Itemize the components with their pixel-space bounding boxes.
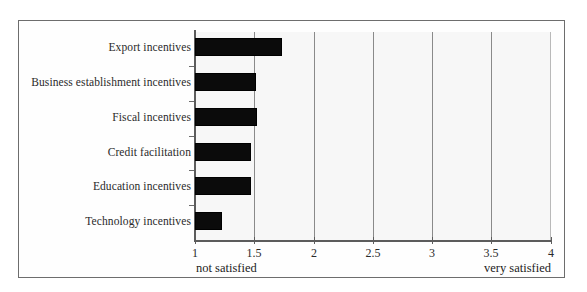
gridline-3-5 <box>491 32 492 240</box>
horizontal-bar-chart: Export incentives Business establishment… <box>0 0 587 292</box>
scale-anchor-low: not satisfied <box>196 261 257 276</box>
y-tick-1 <box>189 66 194 67</box>
plot-area <box>195 32 551 240</box>
bar-business-establishment-incentives <box>195 73 256 91</box>
x-tick-label-2: 2 <box>311 246 317 261</box>
bar-credit-facilitation <box>195 143 251 161</box>
x-tick-label-4: 4 <box>548 246 554 261</box>
x-tick-4 <box>551 237 552 244</box>
x-tick-2 <box>314 237 315 244</box>
x-tick-2-5 <box>373 237 374 244</box>
gridline-3 <box>432 32 433 240</box>
category-label-credit-facilitation: Credit facilitation <box>108 146 191 158</box>
x-tick-3 <box>432 237 433 244</box>
y-tick-4 <box>189 170 194 171</box>
scale-anchor-high: very satisfied <box>484 261 551 276</box>
category-label-business-establishment-incentives: Business establishment incentives <box>31 76 191 88</box>
category-label-export-incentives: Export incentives <box>109 41 192 53</box>
x-tick-label-1: 1 <box>192 246 198 261</box>
category-label-fiscal-incentives: Fiscal incentives <box>112 111 191 123</box>
category-label-technology-incentives: Technology incentives <box>85 215 191 227</box>
category-label-education-incentives: Education incentives <box>93 180 191 192</box>
bar-technology-incentives <box>195 212 222 230</box>
figure-container: Export incentives Business establishment… <box>0 0 587 292</box>
gridline-2-5 <box>373 32 374 240</box>
y-tick-5 <box>189 205 194 206</box>
bar-fiscal-incentives <box>195 108 257 126</box>
gridline-4 <box>550 32 551 240</box>
x-tick-1 <box>195 237 196 244</box>
bar-export-incentives <box>195 38 282 56</box>
gridline-2 <box>314 32 315 240</box>
y-tick-2 <box>189 101 194 102</box>
y-axis-line <box>194 30 196 242</box>
bar-education-incentives <box>195 177 251 195</box>
x-tick-label-3-5: 3.5 <box>484 246 499 261</box>
x-tick-label-3: 3 <box>429 246 435 261</box>
gridline-1-5 <box>254 32 255 240</box>
x-tick-3-5 <box>491 237 492 244</box>
y-tick-3 <box>189 136 194 137</box>
x-tick-1-5 <box>254 237 255 244</box>
x-tick-label-1-5: 1.5 <box>247 246 262 261</box>
x-tick-label-2-5: 2.5 <box>366 246 381 261</box>
